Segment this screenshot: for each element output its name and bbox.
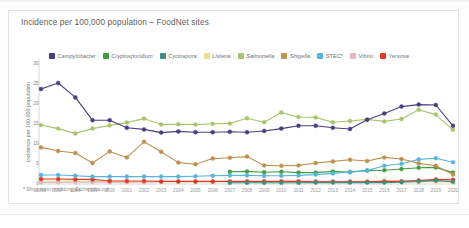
data-point[interactable] bbox=[39, 87, 43, 91]
data-point[interactable] bbox=[451, 180, 455, 184]
data-point[interactable] bbox=[451, 124, 455, 128]
data-point[interactable] bbox=[434, 164, 438, 168]
data-point[interactable] bbox=[297, 181, 301, 185]
data-point[interactable] bbox=[279, 181, 283, 185]
data-point[interactable] bbox=[331, 120, 335, 124]
data-point[interactable] bbox=[262, 174, 266, 178]
data-point[interactable] bbox=[297, 163, 301, 167]
data-point[interactable] bbox=[108, 175, 112, 179]
data-point[interactable] bbox=[262, 163, 266, 167]
data-point[interactable] bbox=[348, 127, 352, 131]
data-point[interactable] bbox=[39, 123, 43, 127]
data-point[interactable] bbox=[417, 157, 421, 161]
data-point[interactable] bbox=[176, 179, 180, 183]
data-point[interactable] bbox=[142, 179, 146, 183]
data-point[interactable] bbox=[382, 164, 386, 168]
data-point[interactable] bbox=[434, 103, 438, 107]
data-point[interactable] bbox=[417, 103, 421, 107]
data-point[interactable] bbox=[211, 122, 215, 126]
data-point[interactable] bbox=[211, 174, 215, 178]
data-point[interactable] bbox=[382, 168, 386, 172]
data-point[interactable] bbox=[434, 179, 438, 183]
data-point[interactable] bbox=[108, 149, 112, 153]
data-point[interactable] bbox=[297, 173, 301, 177]
data-point[interactable] bbox=[108, 179, 112, 183]
data-point[interactable] bbox=[245, 181, 249, 185]
data-point[interactable] bbox=[91, 175, 95, 179]
data-point[interactable] bbox=[194, 162, 198, 166]
data-point[interactable] bbox=[400, 157, 404, 161]
data-point[interactable] bbox=[348, 119, 352, 123]
data-point[interactable] bbox=[245, 116, 249, 120]
data-point[interactable] bbox=[279, 111, 283, 115]
data-point[interactable] bbox=[400, 180, 404, 184]
data-point[interactable] bbox=[228, 156, 232, 160]
data-point[interactable] bbox=[451, 128, 455, 132]
data-point[interactable] bbox=[73, 151, 77, 155]
data-point[interactable] bbox=[176, 129, 180, 133]
data-point[interactable] bbox=[159, 131, 163, 135]
data-point[interactable] bbox=[159, 179, 163, 183]
data-point[interactable] bbox=[382, 155, 386, 159]
data-point[interactable] bbox=[400, 167, 404, 171]
data-point[interactable] bbox=[279, 164, 283, 168]
data-point[interactable] bbox=[176, 175, 180, 179]
data-point[interactable] bbox=[365, 118, 369, 122]
data-point[interactable] bbox=[245, 155, 249, 159]
data-point[interactable] bbox=[245, 130, 249, 134]
data-point[interactable] bbox=[142, 175, 146, 179]
data-point[interactable] bbox=[125, 179, 129, 183]
data-point[interactable] bbox=[417, 166, 421, 170]
data-point[interactable] bbox=[331, 181, 335, 185]
data-point[interactable] bbox=[279, 170, 283, 174]
data-point[interactable] bbox=[314, 181, 318, 185]
data-point[interactable] bbox=[56, 127, 60, 131]
data-point[interactable] bbox=[400, 162, 404, 166]
data-point[interactable] bbox=[159, 123, 163, 127]
data-point[interactable] bbox=[56, 173, 60, 177]
data-point[interactable] bbox=[211, 130, 215, 134]
data-point[interactable] bbox=[211, 179, 215, 183]
data-point[interactable] bbox=[125, 155, 129, 159]
data-point[interactable] bbox=[73, 95, 77, 99]
data-point[interactable] bbox=[39, 145, 43, 149]
data-point[interactable] bbox=[142, 117, 146, 121]
data-point[interactable] bbox=[108, 118, 112, 122]
data-point[interactable] bbox=[365, 181, 369, 185]
data-point[interactable] bbox=[159, 175, 163, 179]
data-point[interactable] bbox=[245, 169, 249, 173]
data-point[interactable] bbox=[417, 108, 421, 112]
data-point[interactable] bbox=[194, 179, 198, 183]
data-point[interactable] bbox=[365, 169, 369, 173]
data-point[interactable] bbox=[382, 111, 386, 115]
data-point[interactable] bbox=[348, 158, 352, 162]
data-point[interactable] bbox=[314, 173, 318, 177]
data-point[interactable] bbox=[56, 149, 60, 153]
data-point[interactable] bbox=[56, 177, 60, 181]
data-point[interactable] bbox=[142, 140, 146, 144]
data-point[interactable] bbox=[451, 160, 455, 164]
data-point[interactable] bbox=[228, 130, 232, 134]
data-point[interactable] bbox=[56, 81, 60, 85]
data-point[interactable] bbox=[297, 124, 301, 128]
data-point[interactable] bbox=[125, 175, 129, 179]
data-point[interactable] bbox=[400, 117, 404, 121]
data-point[interactable] bbox=[434, 113, 438, 117]
data-point[interactable] bbox=[314, 115, 318, 119]
data-point[interactable] bbox=[228, 173, 232, 177]
data-point[interactable] bbox=[194, 123, 198, 127]
data-point[interactable] bbox=[228, 121, 232, 125]
data-point[interactable] bbox=[194, 130, 198, 134]
data-point[interactable] bbox=[348, 170, 352, 174]
data-point[interactable] bbox=[73, 131, 77, 135]
data-point[interactable] bbox=[451, 173, 455, 177]
data-point[interactable] bbox=[125, 121, 129, 125]
data-point[interactable] bbox=[434, 156, 438, 160]
data-point[interactable] bbox=[262, 181, 266, 185]
data-point[interactable] bbox=[108, 123, 112, 127]
data-point[interactable] bbox=[314, 161, 318, 165]
data-point[interactable] bbox=[159, 150, 163, 154]
data-point[interactable] bbox=[314, 124, 318, 128]
data-point[interactable] bbox=[382, 119, 386, 123]
data-point[interactable] bbox=[125, 126, 129, 130]
